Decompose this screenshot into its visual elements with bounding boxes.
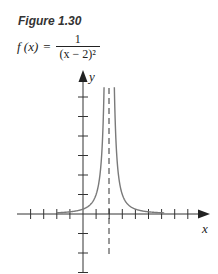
y-axis-label: y — [87, 69, 95, 84]
x-axis-arrow-icon — [198, 210, 210, 219]
x-axis-label: x — [201, 221, 208, 236]
function-plot: x y — [0, 0, 218, 274]
curve-right-branch — [114, 87, 164, 213]
y-axis-arrow-icon — [79, 70, 88, 82]
curve-left-branch — [57, 87, 104, 213]
